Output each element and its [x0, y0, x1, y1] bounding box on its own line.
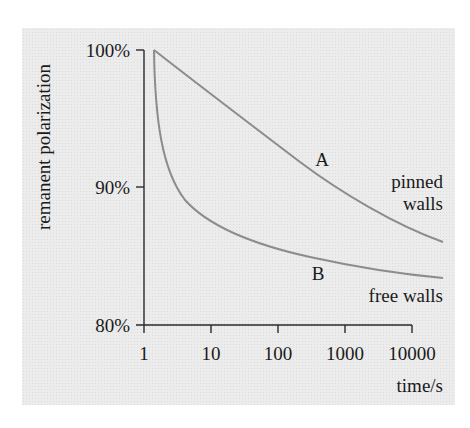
curve-a-pinned-walls	[154, 50, 443, 242]
y-tick-label-80: 80%	[95, 315, 130, 336]
curve-a-label: A	[315, 149, 329, 170]
x-tick-label-1: 1	[139, 343, 149, 364]
x-axis-label: time/s	[397, 375, 443, 396]
y-axis-label: remanent polarization	[33, 63, 54, 230]
x-tick-label-100: 100	[264, 343, 293, 364]
y-tick-label-100: 100%	[86, 40, 131, 61]
curve-b-desc: free walls	[369, 285, 443, 306]
y-tick-label-90: 90%	[95, 177, 130, 198]
x-tick-label-10000: 10000	[388, 343, 436, 364]
curve-a-desc-line1: pinned	[391, 171, 443, 192]
chart: remanent polarization 100% 90% 80% 1 10 …	[0, 0, 470, 428]
curve-a-desc-line2: walls	[403, 193, 443, 214]
x-tick-label-10: 10	[202, 343, 221, 364]
x-tick-label-1000: 1000	[326, 343, 364, 364]
curve-b-label: B	[312, 263, 325, 284]
